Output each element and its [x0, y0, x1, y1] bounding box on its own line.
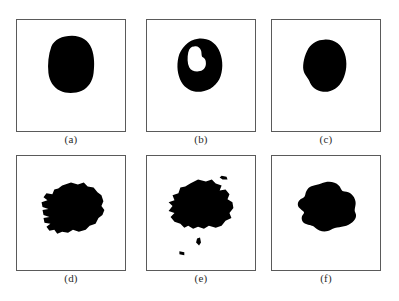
panel-b [146, 19, 256, 132]
mask-image-b [147, 20, 255, 131]
mask-speck-e-1 [220, 176, 228, 180]
mask-blob-a [48, 36, 94, 93]
panel-caption-f: (f) [271, 272, 381, 285]
mask-blob-d [42, 183, 105, 234]
panel-caption-e: (e) [146, 272, 256, 285]
mask-image-f [272, 156, 380, 270]
mask-speck-e-2 [196, 238, 201, 246]
panel-a [16, 19, 126, 132]
mask-image-c [272, 20, 380, 131]
panel-f [271, 155, 381, 271]
figure-panel-grid: (a) (b) (c) (d) (e) (f) [0, 0, 399, 301]
mask-image-d [17, 156, 125, 270]
panel-caption-a: (a) [16, 133, 126, 146]
mask-blob-e [169, 180, 234, 229]
panel-caption-b: (b) [146, 133, 256, 146]
mask-blob-b [177, 39, 222, 92]
mask-image-e [147, 156, 255, 270]
mask-speck-e-3 [179, 251, 184, 255]
mask-blob-c [303, 40, 346, 92]
panel-caption-c: (c) [271, 133, 381, 146]
mask-blob-f [298, 182, 356, 232]
panel-c [271, 19, 381, 132]
panel-d [16, 155, 126, 271]
panel-e [146, 155, 256, 271]
panel-caption-d: (d) [16, 272, 126, 285]
mask-image-a [17, 20, 125, 131]
